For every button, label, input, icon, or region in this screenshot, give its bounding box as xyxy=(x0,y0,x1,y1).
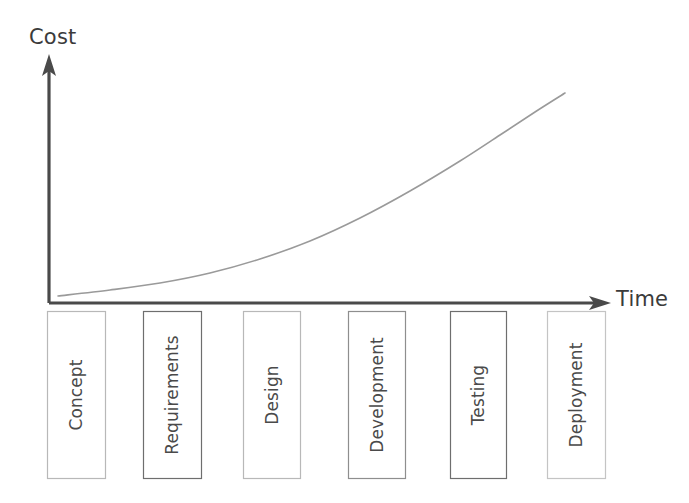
cost-of-change-diagram: Cost Time ConceptRequirementsDesignDevel… xyxy=(0,0,689,503)
phase-box-deployment[interactable]: Deployment xyxy=(547,311,605,478)
phase-box-label: Requirements xyxy=(162,335,182,454)
cost-of-change-curve xyxy=(58,93,565,296)
phase-box-outlines xyxy=(48,312,606,479)
phase-box-development[interactable]: Development xyxy=(348,311,405,478)
phase-box-concept[interactable]: Concept xyxy=(47,311,105,478)
y-axis-label: Cost xyxy=(29,25,77,49)
x-axis-label: Time xyxy=(616,287,668,311)
phase-box-label: Deployment xyxy=(566,342,586,447)
phase-box-label: Concept xyxy=(66,359,86,430)
phase-box-label: Design xyxy=(262,365,282,424)
phase-box-testing[interactable]: Testing xyxy=(450,311,506,478)
phase-box-label: Development xyxy=(367,337,387,453)
phase-box-design[interactable]: Design xyxy=(243,311,300,478)
phase-box-requirements[interactable]: Requirements xyxy=(143,311,201,478)
phase-box-label: Testing xyxy=(468,364,488,424)
